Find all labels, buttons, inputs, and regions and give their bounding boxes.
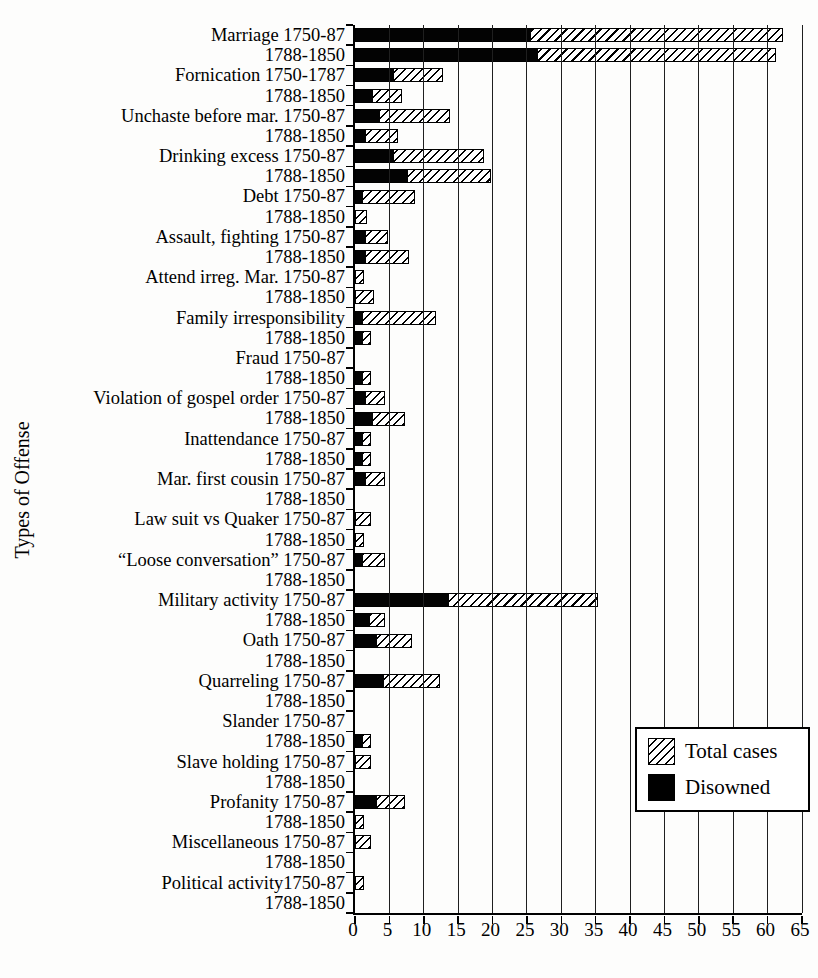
total-cases-bar [355, 795, 405, 809]
y-axis-tick [346, 751, 353, 753]
y-axis-tick [346, 85, 353, 87]
x-axis-tick-label: 35 [584, 919, 603, 941]
x-axis-tick [664, 916, 666, 924]
category-label: 1788-1850 [0, 207, 345, 227]
total-cases-bar [355, 734, 371, 748]
total-cases-bar [355, 270, 364, 284]
total-cases-bar [355, 391, 385, 405]
category-label: 1788-1850 [0, 651, 345, 671]
disowned-bar [356, 675, 384, 687]
disowned-bar [356, 453, 363, 465]
x-axis-tick [767, 916, 769, 924]
disowned-swatch-icon [648, 774, 675, 801]
disowned-bar [356, 635, 377, 647]
x-axis-tick-label: 40 [619, 919, 638, 941]
disowned-bar [356, 251, 366, 263]
category-label: 1788-1850 [0, 86, 345, 106]
y-axis-tick [346, 529, 353, 531]
category-label: 1788-1850 [0, 772, 345, 792]
gridline-x-30 [561, 25, 562, 913]
y-axis-tick [346, 710, 353, 712]
total-cases-bar [355, 755, 371, 769]
y-axis-tick [346, 610, 353, 612]
total-cases-bar [355, 28, 783, 42]
y-axis-tick [346, 125, 353, 127]
y-axis-tick [346, 347, 353, 349]
x-axis-tick [698, 916, 700, 924]
gridline-x-5 [389, 25, 390, 913]
y-axis-tick [346, 509, 353, 511]
x-axis-tick [526, 916, 528, 924]
y-axis-tick [346, 226, 353, 228]
total-cases-bar [355, 190, 415, 204]
disowned-bar [356, 110, 380, 122]
total-cases-bar [355, 674, 440, 688]
gridline-x-40 [630, 25, 631, 913]
y-axis-tick [346, 428, 353, 430]
total-cases-bar [355, 412, 405, 426]
y-axis-tick [346, 246, 353, 248]
x-axis-tick-label: 10 [412, 919, 431, 941]
total-cases-swatch-icon [648, 738, 675, 765]
category-label: Miscellaneous 1750-87 [0, 832, 345, 852]
category-label: Fornication 1750-1787 [0, 65, 345, 85]
x-axis-tick-label: 60 [756, 919, 775, 941]
x-axis-tick-label: 5 [383, 919, 393, 941]
disowned-bar [356, 735, 363, 747]
total-cases-bar [355, 210, 367, 224]
gridline-x-35 [595, 25, 596, 913]
bar-chart-figure: Types of Offense Marriage 1750-871788-18… [0, 0, 818, 978]
category-label: Political activity1750-87 [0, 873, 345, 893]
category-label: 1788-1850 [0, 166, 345, 186]
category-label: “Loose conversation” 1750-87 [0, 550, 345, 570]
total-cases-bar [355, 109, 450, 123]
y-axis-tick [346, 145, 353, 147]
y-axis-tick [346, 488, 353, 490]
category-label: 1788-1850 [0, 731, 345, 751]
y-axis-tick [346, 206, 353, 208]
x-axis-tick [492, 916, 494, 924]
total-cases-bar [355, 68, 443, 82]
total-cases-bar [355, 290, 374, 304]
disowned-bar [356, 594, 449, 606]
y-axis-tick [346, 690, 353, 692]
y-axis-tick [346, 811, 353, 813]
y-axis-tick [346, 589, 353, 591]
category-label: Slander 1750-87 [0, 711, 345, 731]
category-label: 1788-1850 [0, 126, 345, 146]
x-axis-tick [457, 916, 459, 924]
total-cases-bar [355, 89, 402, 103]
total-cases-bar [355, 149, 484, 163]
category-label: 1788-1850 [0, 610, 345, 630]
y-axis-tick [346, 105, 353, 107]
category-label: 1788-1850 [0, 328, 345, 348]
gridline-x-10 [423, 25, 424, 913]
y-axis-tick [346, 650, 353, 652]
y-axis-tick [346, 630, 353, 632]
disowned-bar [356, 29, 531, 41]
gridline-x-25 [526, 25, 527, 913]
x-axis-tick [801, 916, 803, 924]
gridline-x-15 [458, 25, 459, 913]
disowned-bar [356, 312, 363, 324]
legend-label-total-cases: Total cases [685, 739, 777, 764]
gridline-x-20 [492, 25, 493, 913]
disowned-bar [356, 130, 366, 142]
category-label: Family irresponsibility [0, 308, 345, 328]
disowned-bar [356, 372, 363, 384]
x-axis-tick-label: 0 [348, 919, 358, 941]
y-axis-tick [346, 266, 353, 268]
disowned-bar [356, 49, 538, 61]
x-axis-tick-label: 30 [550, 919, 569, 941]
disowned-bar [356, 332, 363, 344]
total-cases-bar [355, 472, 385, 486]
disowned-bar [356, 413, 373, 425]
y-axis-tick [346, 892, 353, 894]
y-axis-tick [346, 287, 353, 289]
category-label: 1788-1850 [0, 570, 345, 590]
x-axis-tick-label: 15 [447, 919, 466, 941]
disowned-bar [356, 433, 363, 445]
y-axis-tick [346, 44, 353, 46]
category-label: 1788-1850 [0, 852, 345, 872]
category-label: Mar. first cousin 1750-87 [0, 469, 345, 489]
